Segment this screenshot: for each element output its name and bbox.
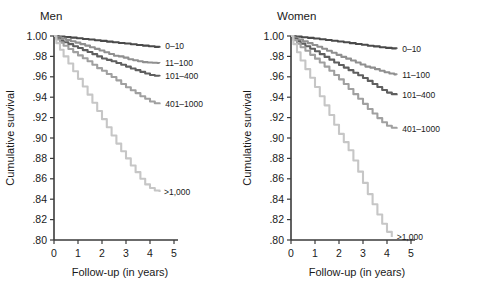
- y-tick-label: .88: [269, 152, 284, 164]
- series-label-women-2: 101–400: [402, 90, 435, 100]
- x-axis-label-women: Follow-up (in years): [309, 266, 406, 278]
- series-label-men-3: 401–1000: [165, 99, 203, 109]
- x-tick-label: 5: [171, 247, 177, 259]
- y-tick-label: .88: [32, 152, 47, 164]
- y-tick-label: .98: [32, 50, 47, 62]
- x-tick-label: 0: [51, 247, 57, 259]
- y-tick-label: .90: [269, 132, 284, 144]
- x-tick-label: 5: [408, 247, 414, 259]
- curve-women-3: [291, 36, 397, 129]
- x-tick-label: 2: [336, 247, 342, 259]
- x-tick-label: 0: [288, 247, 294, 259]
- y-tick-label: .94: [32, 91, 47, 103]
- x-tick-label: 1: [75, 247, 81, 259]
- y-tick-label: .86: [32, 172, 47, 184]
- y-tick-label: .84: [269, 193, 284, 205]
- y-tick-label: .90: [32, 132, 47, 144]
- y-axis-label-men: Cumulative survival: [4, 90, 16, 185]
- y-tick-label: .84: [32, 193, 47, 205]
- y-tick-label: .98: [269, 50, 284, 62]
- y-tick-label: .96: [269, 70, 284, 82]
- series-label-men-4: >1,000: [164, 187, 191, 197]
- y-tick-label: .80: [32, 234, 47, 246]
- series-label-men-2: 101–400: [165, 71, 198, 81]
- y-tick-label: .94: [269, 91, 284, 103]
- y-tick-label: .80: [269, 234, 284, 246]
- y-tick-label: .92: [269, 111, 284, 123]
- series-label-women-0: 0–10: [402, 44, 421, 54]
- series-label-men-1: 11–100: [165, 58, 193, 68]
- panel-men: MenCumulative survivalFollow-up (in year…: [4, 10, 203, 278]
- survival-figure: MenCumulative survivalFollow-up (in year…: [0, 0, 481, 286]
- y-tick-label: .92: [32, 111, 47, 123]
- x-tick-label: 3: [123, 247, 129, 259]
- curve-women-4: [291, 36, 392, 237]
- series-label-men-0: 0–10: [165, 41, 184, 51]
- figure-canvas: MenCumulative survivalFollow-up (in year…: [0, 0, 481, 286]
- y-tick-label: 1.00: [264, 30, 285, 42]
- series-label-women-1: 11–100: [402, 70, 430, 80]
- y-tick-label: .86: [269, 172, 284, 184]
- y-tick-label: .96: [32, 70, 47, 82]
- y-axis-label-women: Cumulative survival: [241, 90, 253, 185]
- curve-women-2: [291, 36, 397, 95]
- x-tick-label: 4: [147, 247, 153, 259]
- panel-women: WomenCumulative survivalFollow-up (in ye…: [241, 10, 440, 278]
- x-tick-label: 1: [312, 247, 318, 259]
- series-label-women-3: 401–1000: [402, 124, 440, 134]
- x-axis-label-men: Follow-up (in years): [72, 266, 169, 278]
- x-tick-label: 3: [360, 247, 366, 259]
- y-tick-label: 1.00: [27, 30, 48, 42]
- x-tick-label: 4: [384, 247, 390, 259]
- x-tick-label: 2: [99, 247, 105, 259]
- panel-title-men: Men: [40, 10, 62, 22]
- y-tick-label: .82: [32, 213, 47, 225]
- panel-title-women: Women: [277, 10, 316, 22]
- series-label-women-4: >1,000: [397, 232, 424, 242]
- y-tick-label: .82: [269, 213, 284, 225]
